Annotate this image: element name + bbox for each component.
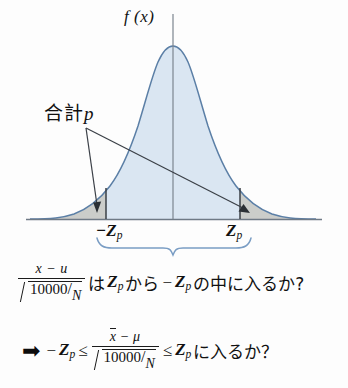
- total-probability-annotation: 合計p: [44, 104, 95, 123]
- formula-2-relation-left: ≤: [76, 341, 89, 361]
- formula-2-z-right: Zp: [174, 340, 192, 361]
- distribution-plot-svg: [0, 0, 348, 258]
- annotation-text-jp: 合計: [44, 102, 84, 124]
- tick-label-negative-zp: −Zp: [96, 222, 122, 242]
- formula-line-2: ➡ − Zp ≤ x − μ 10000/N ≤ Zp に入るか？: [22, 330, 279, 372]
- formula-1-z-upper: Zp: [106, 272, 124, 293]
- formula-2-relation-right: ≤: [161, 341, 174, 361]
- formula-block: x − u 10000/N は Zp から − Zp の中に入るか? ➡ −: [0, 256, 348, 388]
- formula-1-fraction: x − u 10000/N: [18, 262, 85, 304]
- formula-2-z-left: Zp: [58, 340, 76, 361]
- tick-label-negative-zp-subscript: p: [117, 229, 123, 242]
- tick-label-positive-zp-subscript: p: [236, 229, 242, 242]
- y-axis-label: f (x): [124, 8, 154, 25]
- formula-1-text-kara: から: [124, 270, 160, 295]
- tick-label-negative-zp-main: −Z: [96, 221, 117, 240]
- formula-1-z-lower-main: Z: [175, 272, 185, 291]
- formula-2-inner-fraction: 10000/N: [104, 349, 156, 372]
- figure-page: f (x) 合計p −Zp Zp x − u 10000/N: [0, 0, 348, 388]
- formula-1-text-tail: の中に入るか?: [192, 270, 305, 295]
- formula-2-inner-denominator: N: [146, 356, 155, 371]
- right-arrow-icon: ➡: [22, 340, 44, 362]
- formula-1-sqrt-content: 10000/N: [30, 280, 82, 304]
- formula-1-denominator: 10000/N: [18, 279, 85, 304]
- formula-2-fraction: x − μ 10000/N: [92, 330, 159, 372]
- formula-line-1: x − u 10000/N は Zp から − Zp の中に入るか?: [16, 262, 305, 304]
- formula-2-text-tail: に入るか？: [192, 338, 279, 363]
- formula-1-numerator: x − u: [31, 262, 73, 278]
- x-bar-symbol: x: [110, 330, 117, 345]
- normal-distribution-chart: f (x) 合計p −Zp Zp: [0, 0, 348, 258]
- formula-1-z-upper-main: Z: [107, 272, 117, 291]
- formula-2-z-right-main: Z: [175, 340, 185, 359]
- formula-1-text-wa: は: [87, 270, 106, 295]
- tick-label-positive-zp-main: Z: [226, 221, 236, 240]
- formula-1-z-upper-sub: p: [118, 280, 124, 293]
- formula-2-denominator: 10000/N: [92, 347, 159, 372]
- formula-2-minus: −: [44, 341, 58, 361]
- formula-2-numerator: x − μ: [105, 330, 146, 346]
- formula-1-sqrt: 10000/N: [21, 280, 82, 304]
- formula-1-inner-denominator: N: [72, 288, 81, 303]
- formula-2-sqrt: 10000/N: [95, 348, 156, 372]
- formula-2-z-left-main: Z: [59, 340, 69, 359]
- formula-2-inner-numerator: 10000: [104, 349, 142, 365]
- annotation-arrow-left-line: [86, 128, 97, 205]
- formula-1-z-lower: Zp: [174, 272, 192, 293]
- formula-1-minus: −: [160, 273, 174, 293]
- formula-1-inner-fraction: 10000/N: [30, 281, 82, 304]
- formula-2-z-left-sub: p: [69, 348, 75, 361]
- annotation-variable-p: p: [84, 103, 95, 124]
- formula-1-inner-numerator: 10000: [30, 281, 68, 297]
- formula-2-z-right-sub: p: [186, 348, 192, 361]
- formula-1-z-lower-sub: p: [185, 280, 191, 293]
- tick-label-positive-zp: Zp: [226, 222, 242, 242]
- formula-2-sqrt-content: 10000/N: [104, 348, 156, 372]
